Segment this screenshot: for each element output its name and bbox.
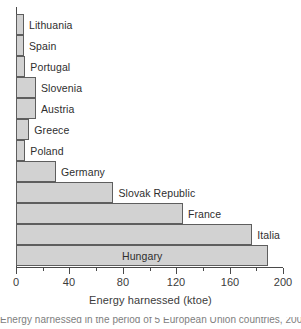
bar-label-portugal: Portugal	[30, 62, 70, 73]
x-tick-80	[123, 268, 124, 274]
clipped-caption-text: Energy harnessed in the period of 5 Euro…	[0, 317, 301, 325]
x-tick-label-160: 160	[221, 276, 240, 288]
bar-slovenia	[16, 77, 36, 98]
plot-area: 0 40 80 120 160 200 LithuaniaSpainPortug…	[0, 0, 301, 270]
bar-france	[16, 203, 183, 224]
bar-row: Greece	[16, 119, 283, 140]
bar-row: Portugal	[16, 56, 283, 77]
bar-spain	[16, 35, 24, 56]
bar-row: Germany	[16, 161, 283, 182]
bar-row: Austria	[16, 98, 283, 119]
bar-row: France	[16, 203, 283, 224]
x-tick-0	[16, 268, 17, 274]
x-tick-label-0: 0	[13, 276, 19, 288]
bar-row: Spain	[16, 35, 283, 56]
bar-label-austria: Austria	[41, 104, 74, 115]
bar-row: Hungary	[16, 245, 283, 266]
x-tick-100	[150, 268, 151, 271]
x-tick-60	[96, 268, 97, 271]
bar-label-lithuania: Lithuania	[29, 20, 73, 31]
bar-row: Italia	[16, 224, 283, 245]
bar-austria	[16, 98, 36, 119]
bar-row: Poland	[16, 140, 283, 161]
bar-italia	[16, 224, 252, 245]
bar-label-poland: Poland	[30, 146, 63, 157]
x-tick-20	[43, 268, 44, 271]
x-tick-label-200: 200	[274, 276, 293, 288]
clipped-caption: Energy harnessed in the period of 5 Euro…	[0, 317, 301, 329]
x-tick-200	[283, 268, 284, 274]
bar-germany	[16, 161, 56, 182]
bar-row: Slovak Republic	[16, 182, 283, 203]
x-tick-40	[69, 268, 70, 274]
bar-label-spain: Spain	[29, 41, 56, 52]
bar-poland	[16, 140, 25, 161]
x-tick-label-40: 40	[63, 276, 75, 288]
x-tick-140	[203, 268, 204, 271]
bar-label-italia: Italia	[257, 230, 280, 241]
x-tick-120	[176, 268, 177, 274]
x-tick-label-80: 80	[117, 276, 129, 288]
x-tick-180	[256, 268, 257, 271]
bar-greece	[16, 119, 29, 140]
x-tick-label-120: 120	[167, 276, 186, 288]
bar-lithuania	[16, 14, 24, 35]
bar-slovak-republic	[16, 182, 113, 203]
bar-label-greece: Greece	[34, 125, 69, 136]
bar-row: Lithuania	[16, 14, 283, 35]
bar-label-france: France	[188, 209, 221, 220]
bar-portugal	[16, 56, 25, 77]
x-tick-160	[230, 268, 231, 274]
bar-label-hungary: Hungary	[122, 251, 162, 262]
bar-row: Slovenia	[16, 77, 283, 98]
bar-label-slovenia: Slovenia	[41, 83, 82, 94]
x-axis-title: Energy harnessed (ktoe)	[0, 294, 301, 306]
bar-chart-figure: 0 40 80 120 160 200 LithuaniaSpainPortug…	[0, 0, 301, 329]
bar-label-slovak-republic: Slovak Republic	[118, 188, 195, 199]
bar-label-germany: Germany	[61, 167, 105, 178]
